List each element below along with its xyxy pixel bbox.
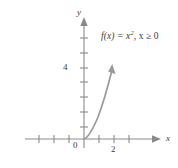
parabola-curve (85, 72, 112, 139)
origin-label: 0 (73, 141, 78, 150)
y-axis-label: y (77, 8, 81, 17)
y-tick-label-4: 4 (63, 63, 68, 72)
y-axis-arrowhead (80, 17, 87, 26)
curve-arrowhead (108, 64, 115, 74)
function-domain: , x ≥ 0 (134, 31, 159, 41)
function-expression-prefix: f(x) = x (101, 31, 130, 41)
x-tick-label-2: 2 (111, 145, 116, 154)
math-figure-parabola: y x 0 2 4 f(x) = x2, x ≥ 0 (0, 0, 178, 168)
function-annotation: f(x) = x2, x ≥ 0 (101, 30, 159, 42)
plot-canvas (0, 0, 178, 168)
x-axis-arrowhead (152, 135, 161, 142)
x-axis-label: x (166, 134, 170, 143)
